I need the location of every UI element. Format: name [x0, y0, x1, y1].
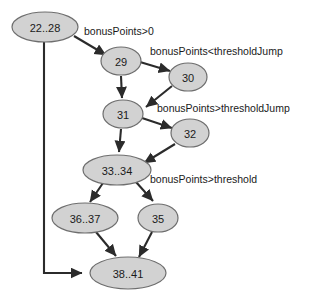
edge-33to36 — [90, 183, 103, 202]
node-38-41[interactable]: 38..41 — [90, 257, 166, 289]
edge-29to31 — [121, 76, 122, 98]
edge-31to33 — [119, 129, 121, 152]
node-label: 36..37 — [70, 213, 101, 225]
node-35[interactable]: 35 — [138, 204, 178, 232]
node-label: 29 — [115, 56, 127, 68]
edge-31to32 — [142, 118, 172, 128]
node-31[interactable]: 31 — [103, 100, 143, 128]
edge-label-bonuspoints-gt-threshold: bonusPoints>threshold — [150, 173, 257, 185]
edge-label-bonuspoints-gt-thresholdjump: bonusPoints>thresholdJump — [157, 102, 290, 114]
edge-22to38-backedge — [44, 42, 82, 273]
control-flow-graph-canvas: 22..28 29 30 31 32 33..34 — [0, 0, 317, 301]
node-22-28[interactable]: 22..28 — [12, 12, 78, 42]
edge-29to30 — [140, 62, 170, 71]
edge-33to35 — [136, 182, 153, 201]
node-33-34[interactable]: 33..34 — [83, 155, 151, 185]
graph-svg: 22..28 29 30 31 32 33..34 — [0, 0, 317, 301]
node-30[interactable]: 30 — [169, 63, 207, 91]
node-label: 30 — [182, 72, 194, 84]
node-32[interactable]: 32 — [171, 119, 209, 147]
node-36-37[interactable]: 36..37 — [52, 203, 118, 233]
edge-22to29 — [74, 36, 106, 55]
node-label: 31 — [117, 109, 129, 121]
node-29[interactable]: 29 — [101, 47, 141, 75]
node-label: 22..28 — [30, 22, 61, 34]
edge-label-bonuspoints-gt-zero: bonusPoints>0 — [84, 25, 154, 37]
node-label: 38..41 — [113, 268, 144, 280]
edge-35to38 — [139, 232, 152, 257]
edge-label-bonuspoints-lt-thresholdjump: bonusPoints<thresholdJump — [150, 45, 283, 57]
node-label: 32 — [184, 128, 196, 140]
node-label: 33..34 — [102, 165, 133, 177]
edge-32to33 — [144, 144, 175, 163]
edge-36to38 — [96, 232, 116, 256]
node-label: 35 — [152, 213, 164, 225]
